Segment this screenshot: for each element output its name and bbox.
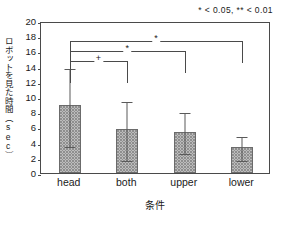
y-tick-label: 4 <box>31 139 36 149</box>
y-tick-mark <box>38 99 41 100</box>
error-cap-lower-upper <box>237 137 248 138</box>
bar-group-upper <box>156 23 214 173</box>
y-tick-label: 16 <box>25 48 36 58</box>
error-bar-head <box>69 69 70 147</box>
error-cap-head-lower <box>64 147 75 148</box>
y-tick-label: 14 <box>25 63 36 73</box>
y-tick-mark <box>38 114 41 115</box>
plot-area: +** <box>40 22 270 174</box>
significance-legend: * < 0.05, ** < 0.01 <box>198 5 273 15</box>
y-tick-mark <box>38 23 41 24</box>
y-axis-tick-labels: 20181614121086420 <box>16 22 36 174</box>
error-bar-both <box>127 102 128 161</box>
y-tick-mark <box>38 38 41 39</box>
y-tick-mark <box>38 160 41 161</box>
x-axis-title: 条件 <box>40 197 270 212</box>
error-bar-upper <box>184 113 185 154</box>
bars-layer <box>41 23 269 173</box>
y-tick-label: 10 <box>25 93 36 103</box>
error-cap-upper-lower <box>179 154 190 155</box>
y-tick-mark <box>38 129 41 130</box>
y-tick-mark <box>38 53 41 54</box>
y-tick-mark <box>38 175 41 176</box>
bar-chart: * < 0.05, ** < 0.01 ロボットを見た時間（sec） 20181… <box>0 0 281 227</box>
x-axis-tick-labels: headbothupperlower <box>40 177 270 193</box>
y-tick-label: 0 <box>31 169 36 179</box>
error-cap-lower-lower <box>237 161 248 162</box>
error-cap-both-upper <box>122 102 133 103</box>
bar-group-both <box>99 23 157 173</box>
x-tick-label-upper: upper <box>170 177 197 188</box>
y-tick-label: 20 <box>25 17 36 27</box>
error-cap-head-upper <box>64 69 75 70</box>
y-tick-label: 2 <box>31 154 36 164</box>
y-tick-mark <box>38 145 41 146</box>
bar-group-head <box>41 23 99 173</box>
x-tick-label-head: head <box>57 177 80 188</box>
y-tick-mark <box>38 69 41 70</box>
bar-group-lower <box>214 23 272 173</box>
error-cap-upper-upper <box>179 113 190 114</box>
error-bar-lower <box>242 137 243 161</box>
y-tick-label: 6 <box>31 124 36 134</box>
y-tick-mark <box>38 84 41 85</box>
y-tick-label: 18 <box>25 32 36 42</box>
x-tick-label-lower: lower <box>229 177 254 188</box>
y-tick-label: 8 <box>31 108 36 118</box>
y-tick-label: 12 <box>25 78 36 88</box>
y-axis-title: ロボットを見た時間（sec） <box>1 18 15 178</box>
x-tick-label-both: both <box>116 177 136 188</box>
error-cap-both-lower <box>122 161 133 162</box>
